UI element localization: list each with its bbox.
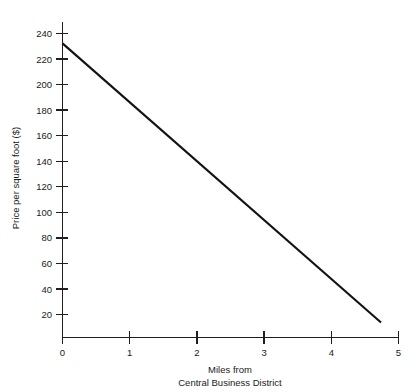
y-tick-label-200: 200 xyxy=(36,79,52,90)
x-axis-title-line1: Miles from xyxy=(208,364,252,375)
x-tick-label-4: 4 xyxy=(329,347,334,358)
y-tick-label-20: 20 xyxy=(41,309,52,320)
y-tick-label-120: 120 xyxy=(36,181,52,192)
x-tick-label-2: 2 xyxy=(194,347,199,358)
y-tick-label-180: 180 xyxy=(36,105,52,116)
chart-container: 240 220 200 180 160 140 120 100 80 60 40… xyxy=(0,0,417,392)
y-axis-title: Price per square foot ($) xyxy=(10,127,21,229)
y-tick-label-40: 40 xyxy=(41,284,52,295)
y-tick-label-60: 60 xyxy=(41,258,52,269)
y-tick-label-80: 80 xyxy=(41,232,52,243)
y-axis-tick-labels: 240 220 200 180 160 140 120 100 80 60 40… xyxy=(36,28,52,320)
x-tick-label-3: 3 xyxy=(261,347,266,358)
y-tick-label-220: 220 xyxy=(36,54,52,65)
x-axis-title-line2: Central Business District xyxy=(178,377,282,388)
x-tick-label-0: 0 xyxy=(60,347,65,358)
y-tick-label-140: 140 xyxy=(36,156,52,167)
x-tick-label-5: 5 xyxy=(396,347,401,358)
price-distance-line-chart: 240 220 200 180 160 140 120 100 80 60 40… xyxy=(0,0,417,392)
y-tick-label-100: 100 xyxy=(36,207,52,218)
y-tick-label-160: 160 xyxy=(36,130,52,141)
x-axis-tick-labels: 0 1 2 3 4 5 xyxy=(60,347,401,358)
y-tick-label-240: 240 xyxy=(36,28,52,39)
x-tick-label-1: 1 xyxy=(127,347,132,358)
price-gradient-line xyxy=(63,43,382,322)
